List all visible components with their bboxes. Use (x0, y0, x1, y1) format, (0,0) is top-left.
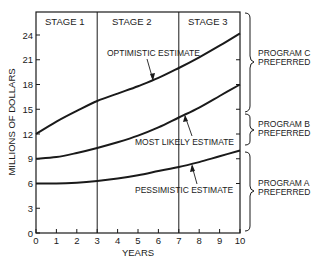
pessimistic-label: PESSIMISTIC ESTIMATE (135, 185, 233, 195)
x-tick-label: 8 (197, 235, 202, 246)
y-tick-label: 6 (28, 178, 33, 189)
x-tick-label: 0 (33, 235, 38, 246)
program-c-brace (245, 13, 254, 112)
y-tick-label: 21 (22, 54, 33, 65)
x-tick-label: 6 (156, 235, 161, 246)
stage-3-label: STAGE 3 (188, 16, 227, 27)
x-tick-label: 3 (95, 235, 100, 246)
program-b-brace (245, 114, 254, 145)
y-tick-label: 12 (22, 129, 33, 140)
y-axis-title: MILLIONS OF DOLLARS (6, 68, 17, 175)
y-tick-label: 0 (28, 228, 33, 239)
most-likely-curve (36, 85, 240, 159)
y-tick-label: 18 (22, 79, 33, 90)
x-axis: 012345678910 (33, 229, 245, 246)
most-likely-label: MOST LIKELY ESTIMATE (135, 137, 234, 147)
x-axis-title: YEARS (122, 247, 154, 258)
program-b-label: PROGRAM B PREFERRED (258, 119, 312, 138)
y-tick-label: 9 (28, 153, 33, 164)
program-a-brace (245, 152, 254, 231)
x-tick-label: 5 (135, 235, 140, 246)
x-tick-label: 4 (115, 235, 120, 246)
plot-frame (36, 12, 240, 233)
program-a-label: PROGRAM A PREFERRED (258, 178, 311, 197)
x-tick-label: 9 (217, 235, 222, 246)
x-tick-label: 10 (235, 235, 246, 246)
program-c-label: PROGRAM C PREFERRED (258, 48, 313, 67)
right-axis-ticks (236, 60, 240, 184)
estimate-chart: STAGE 1 STAGE 2 STAGE 3 03691215182124 0… (0, 0, 319, 263)
x-tick-label: 2 (74, 235, 79, 246)
optimistic-label: OPTIMISTIC ESTIMATE (107, 48, 200, 58)
y-tick-label: 24 (22, 30, 33, 41)
x-tick-label: 7 (176, 235, 181, 246)
stage-1-label: STAGE 1 (45, 16, 84, 27)
stage-2-label: STAGE 2 (112, 16, 151, 27)
x-tick-label: 1 (54, 235, 59, 246)
y-tick-label: 15 (22, 104, 33, 115)
y-tick-label: 3 (28, 203, 33, 214)
